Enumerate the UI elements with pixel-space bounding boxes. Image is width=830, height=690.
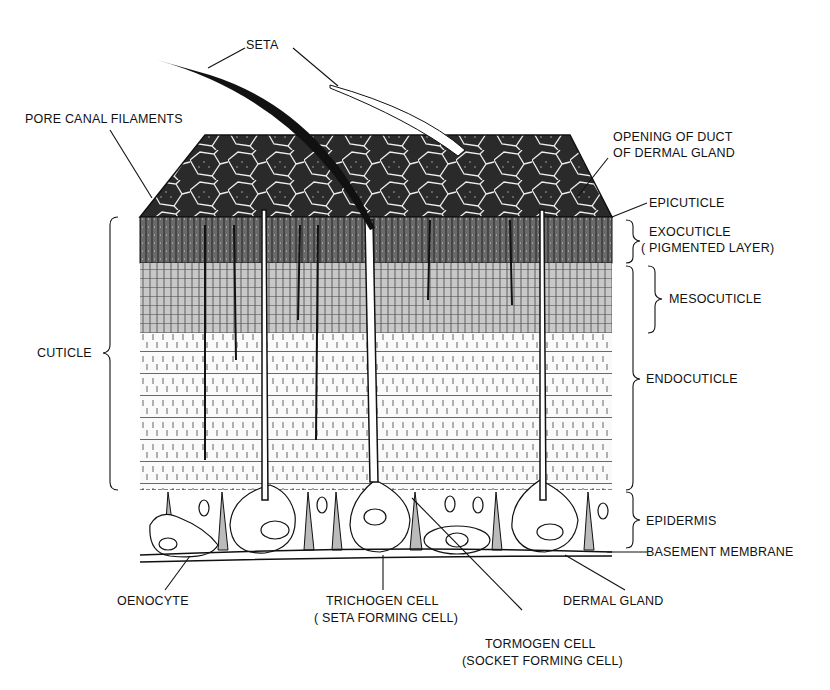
label-seta-forming-cell: ( SETA FORMING CELL) bbox=[314, 611, 458, 626]
label-mesocuticle: MESOCUTICLE bbox=[669, 292, 762, 307]
label-cuticle: CUTICLE bbox=[37, 346, 92, 361]
label-oenocyte: OENOCYTE bbox=[117, 594, 189, 609]
label-seta: SETA bbox=[246, 38, 279, 53]
label-opening-of-duct-1: OPENING OF DUCT bbox=[613, 130, 733, 145]
label-epicuticle: EPICUTICLE bbox=[649, 196, 725, 211]
label-endocuticle: ENDOCUTICLE bbox=[646, 372, 738, 387]
label-opening-of-duct-2: OF DERMAL GLAND bbox=[613, 146, 735, 161]
label-pigmented-layer: ( PIGMENTED LAYER) bbox=[641, 241, 774, 256]
integument-diagram: SETA PORE CANAL FILAMENTS OPENING OF DUC… bbox=[0, 0, 830, 690]
label-epidermis: EPIDERMIS bbox=[646, 514, 717, 529]
diagram-artwork bbox=[0, 0, 830, 690]
label-basement-membrane: BASEMENT MEMBRANE bbox=[646, 545, 794, 560]
label-dermal-gland: DERMAL GLAND bbox=[563, 594, 664, 609]
label-exocuticle: EXOCUTICLE bbox=[649, 225, 731, 240]
epicuticle-surface bbox=[140, 135, 612, 217]
label-socket-forming-cell: (SOCKET FORMING CELL) bbox=[462, 654, 623, 669]
label-tormogen-cell: TORMOGEN CELL bbox=[485, 637, 596, 652]
label-pore-canal-filaments: PORE CANAL FILAMENTS bbox=[25, 112, 183, 127]
label-trichogen-cell: TRICHOGEN CELL bbox=[326, 594, 439, 609]
